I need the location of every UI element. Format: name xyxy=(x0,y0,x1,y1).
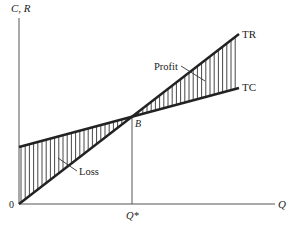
origin-label: 0 xyxy=(9,199,14,210)
x-axis-label: Q xyxy=(278,198,286,210)
tr-line xyxy=(19,34,239,204)
loss-label: Loss xyxy=(79,166,99,177)
breakeven-chart: C, R Q 0 TR TC Profit Loss B Q* xyxy=(0,0,292,231)
y-axis-label: C, R xyxy=(11,2,31,14)
tr-label: TR xyxy=(242,28,257,40)
tc-label: TC xyxy=(242,81,256,93)
breakeven-quantity-label: Q* xyxy=(126,210,140,221)
breakeven-point-label: B xyxy=(135,118,141,129)
profit-label: Profit xyxy=(154,61,178,72)
